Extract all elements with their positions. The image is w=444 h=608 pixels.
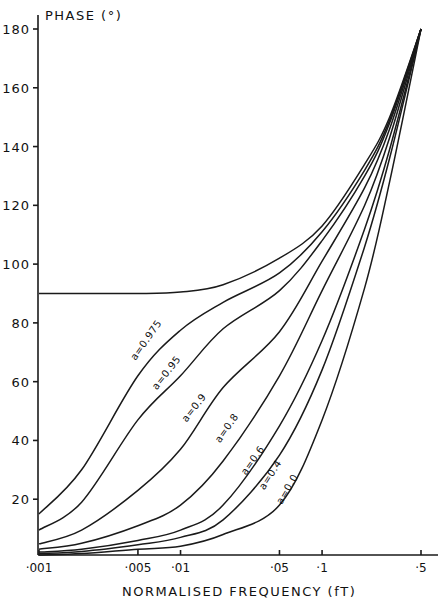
curve-labels: a=0.975a=0.95a=0.9a=0.8a=0.6a=0.4a=0.0 (128, 318, 300, 506)
x-tick-label: ·005 (125, 561, 152, 575)
curve-label: a=0.8 (213, 411, 241, 444)
phase-frequency-chart: 20406080100120140160180 PHASE (°) ·001·0… (0, 0, 444, 608)
curve-label: a=0.0 (274, 472, 300, 506)
curves (39, 29, 421, 555)
x-axis: ·001·005·01·05·1·5 NORMALISED FREQUENCY … (26, 550, 438, 599)
curve-label: a=0.975 (128, 318, 164, 363)
curve-label: a=0.4 (257, 458, 284, 492)
x-tick-label: ·5 (415, 561, 426, 575)
y-tick-label: 180 (2, 22, 30, 37)
x-tick-label: ·1 (316, 561, 327, 575)
curve-a-0-9 (39, 29, 421, 544)
y-tick-label: 80 (11, 316, 30, 331)
y-tick-label: 120 (2, 198, 30, 213)
x-axis-title: NORMALISED FREQUENCY (fT) (122, 584, 356, 599)
curve-a-0-0 (39, 29, 421, 555)
y-tick-label: 100 (2, 257, 30, 272)
y-tick-label: 20 (11, 492, 30, 507)
y-axis-title: PHASE (°) (45, 8, 122, 23)
curve-a-1-0-unlabeled- (39, 29, 421, 294)
y-tick-label: 60 (11, 375, 30, 390)
y-tick-label: 140 (2, 140, 30, 155)
curve-a-0-975 (39, 29, 421, 514)
y-tick-label: 160 (2, 81, 30, 96)
y-ticks: 20406080100120140160180 (2, 22, 38, 507)
curve-label: a=0.9 (179, 391, 208, 424)
curve-label: a=0.95 (150, 354, 183, 392)
curve-label: a=0.6 (239, 444, 267, 477)
x-tick-label: ·05 (270, 561, 289, 575)
y-axis: 20406080100120140160180 PHASE (°) (2, 8, 122, 555)
x-tick-label: ·01 (171, 561, 190, 575)
x-tick-label: ·001 (26, 561, 53, 575)
curve-a-0-95 (39, 29, 421, 530)
y-tick-label: 40 (11, 433, 30, 448)
